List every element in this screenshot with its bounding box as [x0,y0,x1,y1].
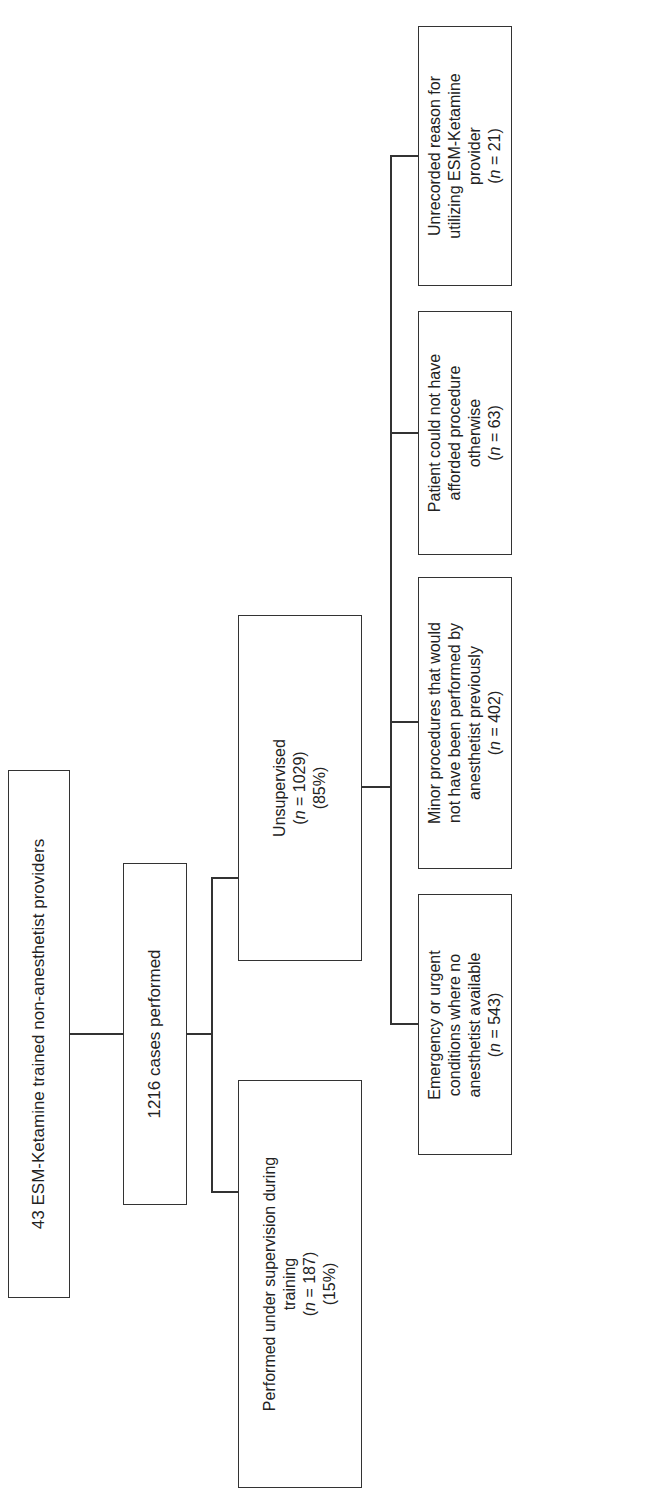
reason-unrecorded-line: utilizing ESM-Ketamine [445,73,465,238]
reason-emergency-line: conditions where no [445,950,465,1099]
unsupervised-percent: (85%) [310,739,330,837]
supervised-node: Performed under supervision during train… [238,1080,362,1488]
supervised-count: (n = 187) [300,1157,320,1411]
reason-minor-count: (n = 402) [485,622,505,824]
connector-root-to-cases [69,1033,124,1035]
reason-afford-count: (n = 63) [485,354,505,512]
reason-afford-line: otherwise [465,354,485,512]
reason-minor-line: Minor procedures that would [425,622,445,824]
root-node-providers: 43 ESM-Ketamine trained non-anesthetist … [8,770,70,1298]
cases-node-text: 1216 cases performed [145,949,164,1118]
unsupervised-title: Unsupervised [270,739,290,837]
supervised-title-line2: training [280,1157,300,1411]
reason-minor-label: Minor procedures that would not have bee… [425,622,505,824]
reason-node-emergency: Emergency or urgent conditions where no … [418,894,512,1155]
reason-unrecorded-line: Unrecorded reason for [425,73,445,238]
cases-node-label: 1216 cases performed [145,949,165,1118]
reason-node-unrecorded: Unrecorded reason for utilizing ESM-Keta… [418,26,512,286]
connector-split-to-unsupervised [211,877,239,879]
connector-unsupervised-to-reasons [361,786,392,788]
reason-node-minor-procedures: Minor procedures that would not have bee… [418,577,512,869]
unsupervised-node-label: Unsupervised (n = 1029) (85%) [270,739,330,837]
reason-unrecorded-line: provider [465,73,485,238]
reason-unrecorded-label: Unrecorded reason for utilizing ESM-Keta… [425,73,505,238]
connector-split-to-supervised [211,1191,239,1193]
connector-reasons-trunk [390,155,392,1025]
reason-unrecorded-count: (n = 21) [485,73,505,238]
reason-emergency-label: Emergency or urgent conditions where no … [425,950,505,1099]
unsupervised-node: Unsupervised (n = 1029) (85%) [238,615,362,961]
supervised-title: Performed under supervision during [260,1157,280,1411]
unsupervised-count: (n = 1029) [290,739,310,837]
reason-node-afford: Patient could not have afforded procedur… [418,311,512,555]
connector-to-reason-unrecorded [390,155,419,157]
reason-afford-line: afforded procedure [445,354,465,512]
reason-emergency-line: Emergency or urgent [425,950,445,1099]
supervised-percent: (15%) [320,1157,340,1411]
reason-emergency-count: (n = 543) [485,950,505,1099]
root-node-label: 43 ESM-Ketamine trained non-anesthetist … [29,839,49,1229]
connector-to-reason-afford [390,432,419,434]
connector-cases-to-split [186,1033,213,1035]
reason-minor-line: anesthetist previously [465,622,485,824]
connector-to-reason-emergency [390,1023,419,1025]
reason-afford-label: Patient could not have afforded procedur… [425,354,505,512]
root-node-text: 43 ESM-Ketamine trained non-anesthetist … [29,839,48,1229]
connector-to-reason-minor [390,721,419,723]
reason-afford-line: Patient could not have [425,354,445,512]
cases-node: 1216 cases performed [123,863,187,1205]
supervised-node-label: Performed under supervision during train… [260,1157,340,1411]
connector-split-vertical [211,877,213,1192]
reason-emergency-line: anesthetist available [465,950,485,1099]
reason-minor-line: not have been performed by [445,622,465,824]
